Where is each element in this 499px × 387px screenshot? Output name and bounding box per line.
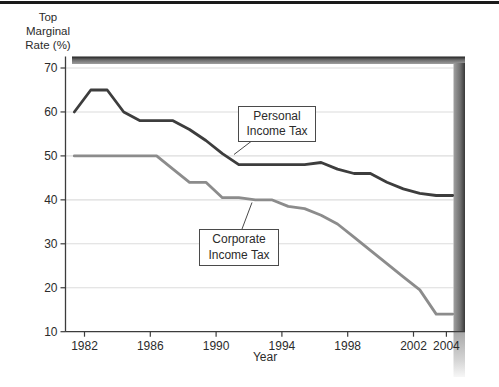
y-tick-label-20: 20 — [44, 281, 58, 295]
x-tick-label-1986: 1986 — [137, 339, 164, 353]
personal-label-line1: Personal — [239, 109, 315, 125]
personal-income-tax-label-box: Personal Income Tax — [238, 106, 316, 142]
corporate-callout-line — [242, 203, 252, 230]
frame-shadow-right — [454, 63, 466, 332]
corporate-label-line2: Income Tax — [200, 248, 278, 264]
x-tick-label-2004: 2004 — [433, 339, 460, 353]
plot-area: 1020304050607019821986199019941998200220… — [0, 0, 499, 387]
x-tick-label-1982: 1982 — [71, 339, 98, 353]
corporate-label-line1: Corporate — [200, 232, 278, 248]
personal-callout-line — [234, 140, 253, 155]
tax-rate-figure: Top Marginal Rate (%) 102030405060701982… — [0, 0, 499, 387]
x-tick-label-1998: 1998 — [334, 339, 361, 353]
y-tick-label-70: 70 — [44, 61, 58, 75]
x-axis-label: Year — [215, 350, 315, 364]
y-tick-label-60: 60 — [44, 105, 58, 119]
corporate-income-tax-label-box: Corporate Income Tax — [199, 229, 279, 266]
x-tick-label-2002: 2002 — [400, 339, 427, 353]
y-tick-label-50: 50 — [44, 149, 58, 163]
personal-label-line2: Income Tax — [239, 124, 315, 140]
y-tick-label-40: 40 — [44, 193, 58, 207]
frame-shadow-top — [72, 57, 465, 65]
y-tick-label-30: 30 — [44, 237, 58, 251]
y-tick-label-10: 10 — [44, 325, 58, 339]
